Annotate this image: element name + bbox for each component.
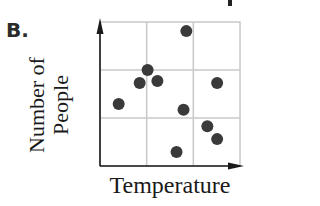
- data-point: [211, 133, 223, 145]
- data-point: [142, 64, 154, 76]
- data-point: [134, 77, 146, 89]
- axes: [97, 18, 245, 170]
- data-point: [201, 120, 213, 132]
- y-axis-arrow-icon: [97, 18, 104, 34]
- data-point: [211, 77, 223, 89]
- data-point: [180, 25, 192, 37]
- data-point: [151, 75, 163, 87]
- data-points: [113, 25, 223, 158]
- data-point: [171, 146, 183, 158]
- x-axis-label: Temperature: [95, 172, 245, 199]
- data-point: [178, 104, 190, 116]
- data-point: [113, 98, 125, 110]
- x-axis-arrow-icon: [228, 163, 244, 170]
